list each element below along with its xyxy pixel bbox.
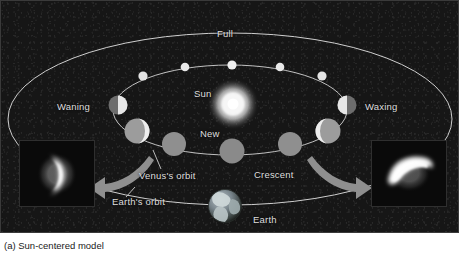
venus-phase-gibbous-left [181,63,190,72]
earth-globe-icon [204,190,242,225]
venus-phase-new [220,139,245,164]
venus-phase-far-group [138,60,326,80]
label-earth: Earth [253,214,277,225]
caption-bar: (a) Sun-centered model R I V U X G [0,233,459,266]
label-earths-orbit: Earth's orbit [112,196,165,207]
label-sun: Sun [194,88,212,99]
venus-crescent-photo [372,141,446,206]
label-crescent: Crescent [254,169,294,180]
venus-phase-crescent-right [316,119,341,144]
venus-phase-gibbous-right [276,63,285,72]
venus-phase-crescent-left [125,119,150,144]
figure-caption: (a) Sun-centered model [4,240,104,251]
label-new: New [200,128,220,139]
venus-phase-thin-right [278,132,302,156]
astronomy-figure-panel: Full Waning Waxing Sun New Venus's orbit… [0,0,459,233]
venus-phase-quarter-waxing [338,96,357,115]
venus-gibbous-photo [20,141,94,206]
sun-glow-icon [207,78,259,130]
curved-arrow-right-icon [307,156,372,199]
label-waxing: Waxing [365,101,398,112]
venus-phase-full [227,60,236,69]
venus-phase-thin-left [162,132,186,156]
venus-phase-far-right [317,71,326,80]
venus-waxing-photo-inset [371,140,447,207]
venus-orbit-leader-line [153,150,161,169]
venus-phase-far-left [138,71,147,80]
label-full: Full [217,28,233,39]
label-waning: Waning [57,101,90,112]
label-venuss-orbit: Venus's orbit [139,170,196,181]
venus-phase-quarter-waning [109,96,128,115]
venus-waning-photo-inset [19,140,95,207]
